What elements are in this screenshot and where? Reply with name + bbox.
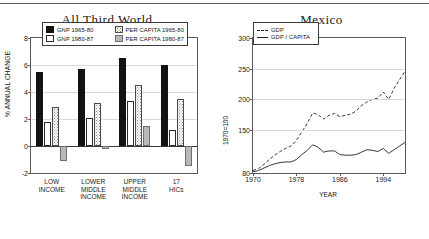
x-axis-label-right: YEAR — [252, 191, 404, 198]
bar — [177, 99, 184, 146]
bar — [161, 65, 168, 146]
legend-right[interactable]: GDP GDP / CAPITA — [253, 22, 319, 45]
x-axis-tick-label: 1978 — [289, 176, 305, 183]
legend-line-solid-icon — [257, 37, 268, 38]
legend-label: PER CAPITA 1965-80 — [126, 27, 184, 33]
y-axis-tick-label: 200 — [238, 96, 250, 103]
x-axis-tick-mark — [296, 173, 297, 176]
y-axis-tick-label: 250 — [238, 65, 250, 72]
legend-label: GDP / CAPITA — [271, 34, 310, 40]
y-axis-tick-mark — [250, 99, 253, 100]
legend-label: GNP 1965-80 — [57, 27, 93, 33]
legend-swatch-black — [46, 26, 54, 33]
y-axis-tick-mark — [28, 173, 31, 174]
y-axis-tick-mark — [250, 130, 253, 131]
plot-area-left: 86420-2 LOW INCOMELOWER MIDDLE INCOMEUPP… — [30, 37, 198, 174]
x-axis-tick-mark — [340, 173, 341, 176]
y-axis-label-right: 1970=100 — [222, 116, 229, 145]
y-axis-tick-mark — [28, 92, 31, 93]
legend-swatch-stipple — [115, 26, 123, 33]
legend-swatch-gray — [115, 35, 123, 42]
bar — [44, 122, 51, 146]
legend-item-gnp-1965-80[interactable]: GNP 1965-80 — [46, 26, 112, 33]
bar — [119, 58, 126, 146]
x-axis-category-label: UPPER MIDDLE INCOME — [122, 178, 148, 201]
legend-item-per-capita-1980-87[interactable]: PER CAPITA 1980-87 — [115, 35, 184, 42]
x-axis-tick-label: 1994 — [375, 176, 391, 183]
y-axis-tick-mark — [28, 65, 31, 66]
legend-item-gdp-per-capita[interactable]: GDP / CAPITA — [257, 34, 315, 40]
y-axis-tick-mark — [28, 38, 31, 39]
x-axis-tick-mark — [383, 173, 384, 176]
bar — [86, 118, 93, 146]
y-axis-tick-mark — [250, 69, 253, 70]
x-axis-category-label: LOWER MIDDLE INCOME — [80, 178, 106, 201]
bar — [78, 69, 85, 146]
bar — [94, 103, 101, 146]
y-axis-tick-mark — [28, 146, 31, 147]
legend-swatch-white — [46, 35, 54, 42]
x-axis-tick-label: 1970 — [245, 176, 261, 183]
bar — [127, 101, 134, 146]
x-axis-tick-mark — [253, 173, 254, 176]
legend-label: GDP — [271, 27, 284, 33]
zero-baseline — [31, 146, 197, 147]
chart-panel-all-third-world: All Third World % ANNUAL CHANGE 86420-2 … — [0, 0, 214, 239]
line-series — [253, 142, 405, 171]
legend-item-gdp[interactable]: GDP — [257, 27, 315, 33]
chart-title-right: Mexico — [214, 12, 429, 28]
grid-line — [253, 69, 405, 70]
bar — [143, 126, 150, 146]
line-series — [253, 71, 405, 170]
grid-line — [31, 65, 197, 66]
legend-item-gnp-1980-87[interactable]: GNP 1980-87 — [46, 35, 112, 42]
x-axis-tick-label: 1986 — [332, 176, 348, 183]
x-axis-category-label: LOW INCOME — [39, 178, 65, 193]
bar — [36, 72, 43, 146]
line-series-container — [253, 38, 405, 173]
bar — [52, 107, 59, 146]
y-axis-tick-label: 150 — [238, 127, 250, 134]
bar — [135, 85, 142, 146]
plot-area-right: 30025020015080 1970197819861994 — [252, 37, 406, 174]
bar — [102, 146, 109, 149]
grid-line — [31, 92, 197, 93]
bar — [185, 146, 192, 166]
grid-line — [253, 99, 405, 100]
x-axis-category-label: 17 HICs — [169, 178, 183, 193]
y-axis-tick-label: 300 — [238, 35, 250, 42]
y-axis-label-left: % ANNUAL CHANGE — [4, 51, 11, 117]
grid-line — [253, 130, 405, 131]
legend-left[interactable]: GNP 1965-80 PER CAPITA 1965-80 GNP 1980-… — [42, 22, 188, 46]
legend-label: GNP 1980-87 — [57, 36, 93, 42]
bar — [169, 130, 176, 146]
bar — [60, 146, 67, 161]
legend-line-dashed-icon — [257, 30, 268, 31]
legend-item-per-capita-1965-80[interactable]: PER CAPITA 1965-80 — [115, 26, 184, 33]
y-axis-tick-mark — [28, 119, 31, 120]
legend-label: PER CAPITA 1980-87 — [126, 36, 184, 42]
